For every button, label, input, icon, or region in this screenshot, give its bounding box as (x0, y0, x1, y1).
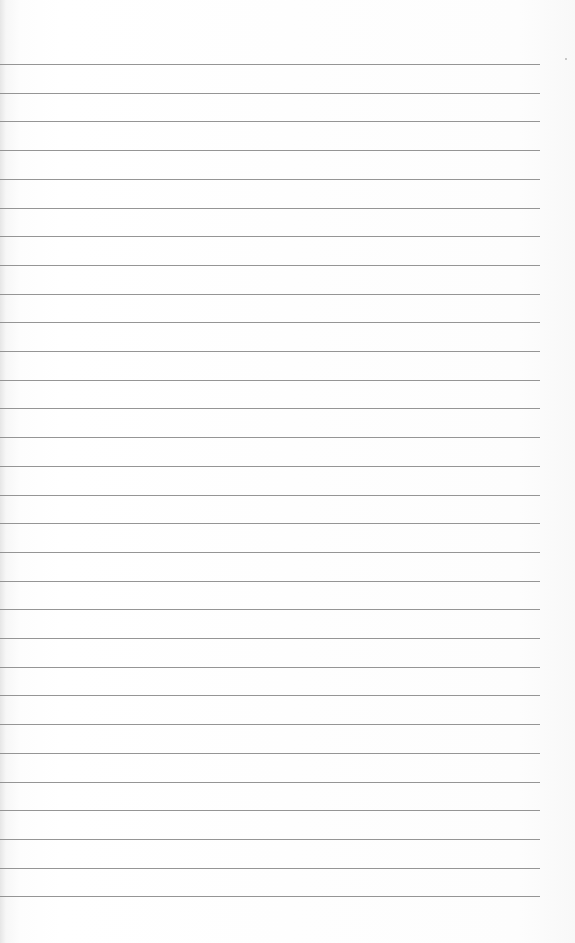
ruled-line (0, 896, 540, 897)
ruled-line (0, 236, 540, 237)
ruled-line (0, 351, 540, 352)
ruled-line (0, 523, 540, 524)
ruled-line (0, 466, 540, 467)
lined-paper-sheet (0, 0, 575, 943)
ruled-line (0, 753, 540, 754)
ruled-line (0, 839, 540, 840)
ruled-line (0, 208, 540, 209)
ruled-line (0, 638, 540, 639)
ruled-line (0, 179, 540, 180)
ruled-line (0, 868, 540, 869)
ruled-line (0, 552, 540, 553)
ruled-line (0, 408, 540, 409)
ruled-line (0, 64, 540, 65)
ruled-line (0, 121, 540, 122)
ruled-line (0, 495, 540, 496)
ruled-line (0, 93, 540, 94)
ruled-line (0, 609, 540, 610)
paper-speck (565, 58, 567, 60)
ruled-line (0, 810, 540, 811)
ruled-line (0, 437, 540, 438)
ruled-line (0, 581, 540, 582)
ruled-line (0, 294, 540, 295)
ruled-line (0, 322, 540, 323)
ruled-line (0, 782, 540, 783)
ruled-line (0, 667, 540, 668)
ruled-line (0, 724, 540, 725)
ruled-line (0, 695, 540, 696)
ruled-line (0, 150, 540, 151)
ruled-line (0, 265, 540, 266)
ruled-line (0, 380, 540, 381)
